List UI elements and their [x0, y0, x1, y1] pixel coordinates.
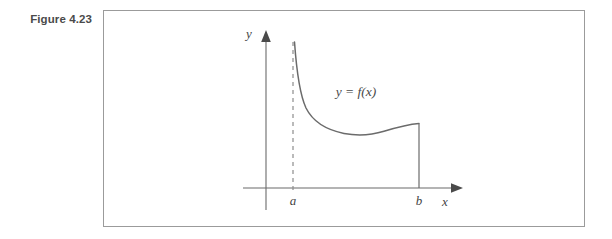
- tick-label-b: b: [416, 193, 423, 208]
- y-axis: [261, 30, 271, 210]
- x-axis-arrowhead: [451, 183, 463, 193]
- figure-caption: Figure 4.23: [0, 13, 92, 25]
- figure-container: Figure 4.23 y x a b y = f(x): [0, 0, 612, 239]
- y-axis-arrowhead: [261, 30, 271, 42]
- x-axis-label: x: [441, 194, 448, 209]
- y-axis-label: y: [244, 26, 252, 41]
- curve-equation-label: y = f(x): [334, 84, 377, 99]
- function-graph: y x a b y = f(x): [103, 10, 585, 227]
- x-axis: [243, 183, 463, 193]
- tick-label-a: a: [290, 193, 297, 208]
